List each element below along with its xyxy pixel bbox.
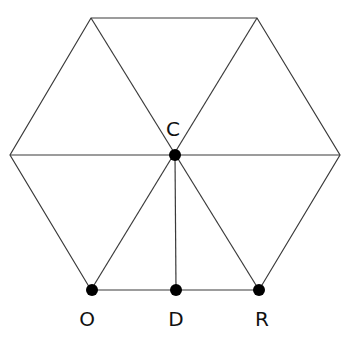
point-d: [170, 284, 182, 296]
label-d: D: [168, 307, 183, 331]
point-c: [169, 149, 181, 161]
label-o: O: [79, 307, 95, 331]
label-c: C: [166, 117, 180, 141]
point-o: [86, 284, 98, 296]
segment-cd: [175, 155, 176, 290]
point-r: [253, 284, 265, 296]
hexagon-diagram: C O D R: [0, 0, 348, 352]
label-r: R: [255, 307, 269, 331]
